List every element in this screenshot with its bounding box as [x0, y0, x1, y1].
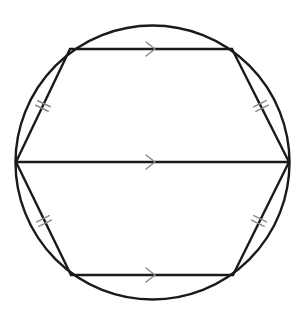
upper-left-side-line [16, 49, 70, 162]
geometry-diagram [0, 0, 302, 318]
upper-right-side-line [232, 49, 289, 162]
hexagon-lines [16, 49, 289, 275]
